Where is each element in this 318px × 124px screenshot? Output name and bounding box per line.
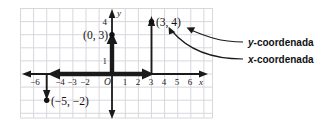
x-tick-label-6: 6 <box>188 77 193 87</box>
y-axis-label: y <box>116 8 121 18</box>
x-tick-label-3: 3 <box>149 77 154 87</box>
callout-label-y-coordenada: y-coordenada <box>247 37 314 48</box>
point-label-0-3: (0, 3) <box>83 29 108 42</box>
point-label-3-4: (3, 4) <box>156 16 181 29</box>
x-tick-label-1: 1 <box>123 77 128 87</box>
x-axis-label: x <box>198 77 203 87</box>
x-tick-label-5: 5 <box>175 77 180 87</box>
y-tick-label-4: 4 <box>103 17 108 27</box>
x-tick-label-neg2: −2 <box>80 77 90 87</box>
coordinate-plane-figure: y x O −6 −4 −3 −2 1 2 3 4 5 6 4 1 <box>0 0 318 124</box>
point-label-neg5-neg2: (−5, −2) <box>51 95 89 108</box>
callout-y-rest: -coordenada <box>254 37 314 48</box>
x-tick-label-neg4: −4 <box>55 77 65 87</box>
point-marker-3-4 <box>149 19 154 24</box>
x-tick-label-4: 4 <box>162 77 167 87</box>
coordinate-plane-svg: y x O −6 −4 −3 −2 1 2 3 4 5 6 4 1 <box>0 0 318 124</box>
x-tick-label-neg3: −3 <box>67 77 77 87</box>
x-tick-label-2: 2 <box>136 77 141 87</box>
callout-label-x-coordenada: x-coordenada <box>247 54 314 65</box>
point-marker-neg5-neg2 <box>44 98 49 103</box>
y-tick-label-1: 1 <box>103 56 108 66</box>
origin-label: O <box>104 77 111 87</box>
x-tick-label-neg6: −6 <box>30 77 40 87</box>
point-marker-0-3 <box>109 32 114 37</box>
callout-x-rest: -coordenada <box>254 54 314 65</box>
